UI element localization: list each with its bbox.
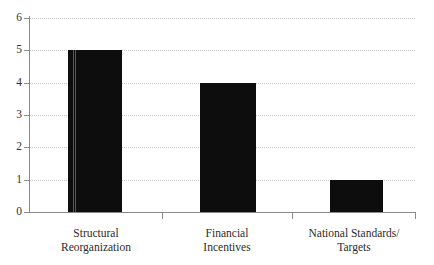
y-tick-mark-4 xyxy=(24,83,30,84)
x-tick-mark-3 xyxy=(415,213,416,219)
y-axis-tick-label-0: 0 xyxy=(0,206,22,218)
category-label-line-2: Reorganization xyxy=(30,240,162,254)
bar-structural-reorganization xyxy=(68,50,122,212)
x-axis-spine xyxy=(29,212,416,213)
y-axis-tick-label-3: 3 xyxy=(0,109,22,121)
y-axis-tick-label-2: 2 xyxy=(0,141,22,153)
y-tick-mark-2 xyxy=(24,147,30,148)
gridline-6 xyxy=(29,18,415,19)
x-axis-category-label-1: Financial Incentives xyxy=(163,226,291,254)
category-label-line-1: Financial xyxy=(163,226,291,240)
y-axis-tick-label-4: 4 xyxy=(0,77,22,89)
y-tick-mark-1 xyxy=(24,180,30,181)
category-label-line-2: Targets xyxy=(292,240,416,254)
bar-national-standards-targets xyxy=(330,180,383,212)
y-axis-tick-label-6: 6 xyxy=(0,12,22,24)
category-label-line-1: National Standards/ xyxy=(292,226,416,240)
x-tick-mark-2 xyxy=(292,213,293,219)
scan-artifact xyxy=(73,50,74,212)
bar-financial-incentives xyxy=(200,83,256,212)
y-axis-tick-label-1: 1 xyxy=(0,174,22,186)
x-tick-mark-1 xyxy=(162,213,163,219)
x-axis-category-label-2: National Standards/ Targets xyxy=(292,226,416,254)
y-tick-mark-6 xyxy=(24,18,30,19)
y-tick-mark-0 xyxy=(24,212,30,213)
bar-chart: 6 5 4 3 2 1 0 Structural Reorganization … xyxy=(0,0,434,265)
scan-artifact xyxy=(75,50,76,212)
y-axis-tick-label-5: 5 xyxy=(0,44,22,56)
y-tick-mark-5 xyxy=(24,50,30,51)
category-label-line-2: Incentives xyxy=(163,240,291,254)
category-label-line-1: Structural xyxy=(30,226,162,240)
plot-area xyxy=(29,18,415,212)
y-tick-mark-3 xyxy=(24,115,30,116)
x-axis-category-label-0: Structural Reorganization xyxy=(30,226,162,254)
